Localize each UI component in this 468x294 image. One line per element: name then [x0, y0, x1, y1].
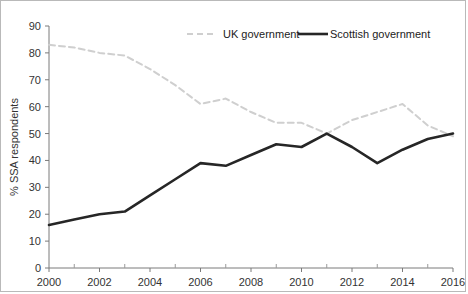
x-tick-label: 2002: [87, 276, 111, 288]
y-axis-title: % SSA respondents: [8, 98, 20, 196]
x-tick-label: 2006: [188, 276, 212, 288]
x-tick-label: 2010: [289, 276, 313, 288]
y-tick-labels: 0102030405060708090: [29, 20, 41, 274]
y-tick-label: 0: [35, 262, 41, 274]
chart-figure: 0102030405060708090 % SSA respondents 20…: [0, 0, 466, 292]
y-tick-label: 90: [29, 20, 41, 32]
y-tick-label: 80: [29, 47, 41, 59]
x-tick-label: 2016: [441, 276, 465, 288]
y-tick-marks: [45, 26, 49, 268]
line-chart: 0102030405060708090 % SSA respondents 20…: [1, 1, 467, 293]
y-tick-label: 70: [29, 74, 41, 86]
x-tick-labels: 200020022004200620082010201220142016: [37, 276, 465, 288]
y-tick-label: 10: [29, 235, 41, 247]
x-tick-label: 2014: [390, 276, 414, 288]
series-line-scottish-government: [49, 134, 453, 225]
x-tick-label: 2012: [340, 276, 364, 288]
x-tick-label: 2000: [37, 276, 61, 288]
y-tick-label: 50: [29, 128, 41, 140]
legend-label-uk-government: UK government: [223, 28, 299, 40]
y-tick-label: 20: [29, 208, 41, 220]
y-tick-label: 30: [29, 181, 41, 193]
series-line-uk-government: [49, 45, 453, 136]
x-axis: 200020022004200620082010201220142016: [37, 264, 465, 288]
legend-label-scottish-government: Scottish government: [330, 28, 430, 40]
y-tick-label: 60: [29, 101, 41, 113]
x-tick-label: 2004: [138, 276, 162, 288]
chart-legend: UK government Scottish government: [187, 28, 430, 40]
y-axis: 0102030405060708090 % SSA respondents: [8, 20, 49, 274]
data-series-group: [49, 45, 453, 225]
y-tick-label: 40: [29, 154, 41, 166]
x-tick-label: 2008: [239, 276, 263, 288]
